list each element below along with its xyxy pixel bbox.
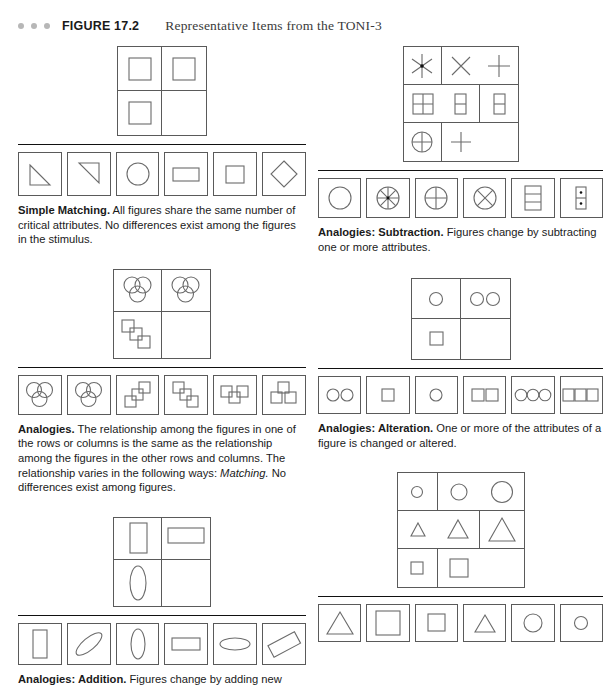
option-square-large[interactable] <box>366 604 409 642</box>
option-three-squares-cascade-up[interactable] <box>116 375 160 415</box>
option-three-circles[interactable] <box>511 376 554 414</box>
caption-bold: Analogies: Addition. <box>18 673 126 685</box>
square-icon <box>171 56 197 82</box>
divider <box>318 368 603 369</box>
option-rect-diagonal[interactable] <box>262 623 306 665</box>
triangle-medium-icon <box>468 608 502 638</box>
option-one-square[interactable] <box>366 376 409 414</box>
one-square-icon <box>419 327 453 351</box>
option-triangle-lower-left[interactable] <box>18 152 62 196</box>
option-ellipse-horizontal[interactable] <box>213 623 257 665</box>
option-diamond[interactable] <box>262 152 306 196</box>
rectangle-wide-icon <box>169 157 203 191</box>
matrix-cell <box>398 473 438 511</box>
circle-small-icon <box>564 608 598 638</box>
three-squares-row-overlap-icon <box>218 379 252 411</box>
option-three-squares-cascade-down[interactable] <box>164 375 208 415</box>
matrix-cell <box>162 47 206 91</box>
square-icon <box>127 100 153 126</box>
square-icon <box>218 157 252 191</box>
option-circle-x[interactable] <box>463 178 506 218</box>
option-two-squares[interactable] <box>463 376 506 414</box>
header-dot-icon <box>31 23 37 29</box>
rect-halved-icon <box>446 90 474 118</box>
answer-options-analogies <box>18 375 306 415</box>
option-ellipse-vertical[interactable] <box>116 623 160 665</box>
three-squares-cascade-down-icon <box>169 379 203 411</box>
option-three-squares-row-overlap[interactable] <box>213 375 257 415</box>
square-quartered-icon <box>409 90 437 118</box>
matrix-cell <box>438 511 480 549</box>
option-square[interactable] <box>213 152 257 196</box>
option-three-squares[interactable] <box>560 376 603 414</box>
answer-options-progression <box>318 604 603 642</box>
square-medium-icon <box>444 553 474 583</box>
stimulus-matrix <box>411 278 511 360</box>
option-rect-horizontal[interactable] <box>164 623 208 665</box>
matrix-cell-empty <box>162 91 206 135</box>
section-simple-matching: Simple Matching. All figures share the s… <box>18 46 306 247</box>
option-circle[interactable] <box>116 152 160 196</box>
square-small-icon <box>403 554 431 582</box>
answer-options-addition <box>18 623 306 665</box>
matrix-cell <box>162 518 210 560</box>
option-rect-two-dots[interactable] <box>560 178 603 218</box>
triangle-medium-icon <box>443 515 473 545</box>
matrix-cell <box>480 47 518 85</box>
circle-icon <box>324 183 356 213</box>
rect-thirds-icon <box>517 183 549 213</box>
stimulus-matrix <box>397 472 525 588</box>
three-circles-venn-icon <box>23 379 57 411</box>
matrix-cell-empty <box>480 549 524 587</box>
option-three-circles-venn[interactable] <box>67 375 111 415</box>
caption-bold: Simple Matching. <box>18 204 110 216</box>
option-rect-vertical[interactable] <box>18 623 62 665</box>
option-ellipse-diagonal[interactable] <box>67 623 111 665</box>
right-column: Analogies: Subtraction. Figures change b… <box>318 46 603 642</box>
option-three-squares-cluster[interactable] <box>262 375 306 415</box>
option-triangle-upper-right[interactable] <box>67 152 111 196</box>
option-circle-8-spokes[interactable] <box>366 178 409 218</box>
three-circles-venn-icon <box>120 273 156 307</box>
divider <box>318 170 603 171</box>
stimulus-matrix <box>113 517 211 607</box>
matrix-cell <box>162 270 210 312</box>
option-rectangle-wide[interactable] <box>164 152 208 196</box>
option-circle[interactable] <box>318 178 361 218</box>
option-circle-small[interactable] <box>560 604 603 642</box>
option-triangle-medium[interactable] <box>463 604 506 642</box>
triangle-large-icon <box>323 608 357 638</box>
option-square-medium[interactable] <box>415 604 458 642</box>
option-circle-medium[interactable] <box>511 604 554 642</box>
ellipse-vertical-icon <box>121 627 155 661</box>
option-one-circle[interactable] <box>415 376 458 414</box>
option-three-circles-venn[interactable] <box>18 375 62 415</box>
caption-simple-matching: Simple Matching. All figures share the s… <box>18 203 306 247</box>
triangle-small-icon <box>404 516 432 544</box>
rect-halved-icon <box>485 90 513 118</box>
matrix-cell <box>480 85 518 123</box>
option-rect-thirds[interactable] <box>511 178 554 218</box>
stimulus-matrix-wrap <box>318 278 603 360</box>
option-triangle-large[interactable] <box>318 604 361 642</box>
three-circles-icon <box>514 384 552 406</box>
circle-8-spokes-icon <box>372 183 404 213</box>
option-circle-crossed[interactable] <box>415 178 458 218</box>
caption-italic: Matching. <box>220 467 269 479</box>
circle-x-icon <box>469 183 501 213</box>
matrix-cell <box>412 279 461 319</box>
rect-horizontal-icon <box>169 627 203 661</box>
option-two-circles[interactable] <box>318 376 361 414</box>
triangle-large-icon <box>485 514 519 546</box>
matrix-cell <box>118 47 162 91</box>
one-circle-icon <box>418 384 454 406</box>
circle-medium-icon <box>444 477 474 507</box>
rect-vertical-icon <box>118 519 158 557</box>
left-column: Simple Matching. All figures share the s… <box>18 46 306 686</box>
matrix-cell <box>404 123 442 161</box>
circle-crossed-icon <box>420 183 452 213</box>
three-squares-cascade-icon <box>119 316 157 354</box>
section-analogies-alteration: Analogies: Alteration. One or more of th… <box>318 278 603 450</box>
three-circles-venn-icon <box>72 379 106 411</box>
answer-options-subtraction <box>318 178 603 218</box>
